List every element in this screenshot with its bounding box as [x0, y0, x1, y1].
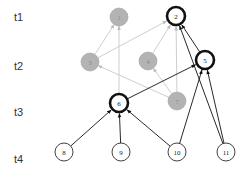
edge-7-to-2	[176, 26, 177, 92]
time-label-t4: t4	[14, 153, 23, 165]
edge-11-to-2	[180, 26, 223, 144]
time-label-t2: t2	[14, 60, 23, 72]
node-label: 2	[174, 13, 178, 21]
node-4: 4	[139, 52, 157, 70]
node-1: 1	[110, 8, 128, 26]
edge-3-to-1	[95, 25, 114, 55]
time-label-t3: t3	[14, 106, 23, 118]
node-label: 8	[62, 149, 66, 157]
node-label: 11	[223, 149, 230, 157]
node-label: 4	[146, 58, 150, 66]
node-label: 1	[117, 14, 121, 22]
node-label: 5	[203, 57, 207, 65]
time-label-t1: t1	[14, 11, 23, 23]
edge-7-to-3	[98, 66, 169, 98]
edge-9-to-6	[119, 113, 120, 143]
edge-3-to-2	[98, 21, 167, 58]
node-7: 7	[168, 92, 186, 110]
nodes: 1234567891011	[55, 7, 235, 161]
node-8: 8	[55, 143, 73, 161]
graph-diagram: t1t2t3t4 1234567891011	[0, 0, 246, 169]
edge-10-to-6	[127, 110, 170, 146]
edge-8-to-6	[71, 110, 111, 146]
node-label: 3	[88, 59, 92, 67]
node-label: 10	[174, 149, 182, 157]
node-11: 11	[217, 143, 235, 161]
node-2: 2	[167, 7, 185, 25]
edges	[71, 21, 224, 146]
node-label: 7	[175, 98, 179, 106]
node-10: 10	[168, 143, 186, 161]
node-label: 6	[117, 100, 121, 108]
time-labels: t1t2t3t4	[14, 11, 23, 165]
node-label: 9	[119, 149, 123, 157]
node-9: 9	[112, 143, 130, 161]
edge-4-to-2	[153, 25, 171, 53]
node-5: 5	[196, 51, 214, 69]
node-3: 3	[81, 53, 99, 71]
node-6: 6	[110, 94, 128, 112]
